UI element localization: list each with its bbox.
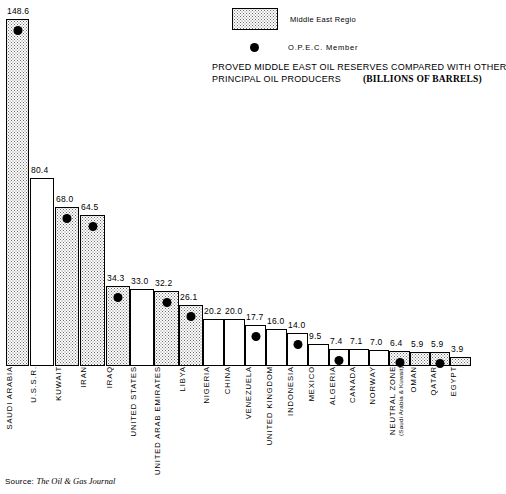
axis-label-canada: CANADA xyxy=(349,366,369,403)
bar-value-label: 64.5 xyxy=(81,202,98,212)
bar-value-label: 9.5 xyxy=(309,331,321,341)
axis-label-sub: (Saudi Arabia & Kuwait) xyxy=(397,366,404,436)
axis-label-china: CHINA xyxy=(224,366,245,394)
bar-norway xyxy=(369,350,389,366)
bar-column xyxy=(308,2,329,366)
bar-column xyxy=(6,2,29,366)
bar-column xyxy=(430,2,450,366)
bar-value-label: 68.0 xyxy=(56,194,73,204)
opec-dot-icon xyxy=(13,26,22,35)
bar-column xyxy=(349,2,369,366)
bar-oman xyxy=(410,352,430,366)
bar-value-label: 14.0 xyxy=(288,320,305,330)
bar-iran xyxy=(80,215,105,366)
bar-column xyxy=(287,2,308,366)
bar-column xyxy=(154,2,179,366)
bar-column xyxy=(266,2,287,366)
opec-dot-icon xyxy=(251,332,260,341)
bar-value-label: 32.2 xyxy=(155,278,172,288)
bar-value-label: 16.0 xyxy=(267,316,284,326)
opec-dot-icon xyxy=(293,340,302,349)
axis-label-u-s-s-r-: U.S.S.R. xyxy=(30,366,54,403)
opec-dot-icon xyxy=(187,312,196,321)
bar-united-states xyxy=(130,289,154,366)
bar-saudi-arabia xyxy=(6,19,29,366)
bar-value-label: 5.9 xyxy=(431,339,443,349)
bar-value-label: 6.4 xyxy=(390,338,402,348)
bar-column xyxy=(329,2,349,366)
source-prefix: Source: xyxy=(5,477,34,486)
bar-value-label: 5.9 xyxy=(411,339,423,349)
opec-dot-icon xyxy=(88,222,97,231)
axis-label-norway: NORWAY xyxy=(369,366,389,405)
bar-value-label: 7.1 xyxy=(350,336,362,346)
bar-column xyxy=(389,2,410,366)
bar-value-label: 17.7 xyxy=(246,312,263,322)
bar-value-label: 34.3 xyxy=(107,273,124,283)
bar-column xyxy=(130,2,154,366)
axis-label-kuwait: KUWAIT xyxy=(55,366,79,401)
bar-value-label: 7.4 xyxy=(330,336,342,346)
bar-nigeria xyxy=(203,319,224,366)
bar-column xyxy=(55,2,79,366)
bar-value-label: 148.6 xyxy=(7,6,29,16)
axis-label-venezuela: VENEZUELA xyxy=(245,366,266,419)
opec-dot-icon xyxy=(162,298,171,307)
bar-column xyxy=(80,2,105,366)
bar-egypt xyxy=(450,357,471,366)
opec-dot-icon xyxy=(114,293,123,302)
axis-label-qatar: QATAR xyxy=(430,366,450,396)
axis-label-indonesia: INDONESIA xyxy=(287,366,308,416)
bar-indonesia xyxy=(287,333,308,366)
bar-value-label: 7.0 xyxy=(370,337,382,347)
bar-column xyxy=(179,2,203,366)
bar-china xyxy=(224,319,245,366)
bar-value-label: 20.2 xyxy=(204,306,221,316)
source-note: Source: The Oil & Gas Journal xyxy=(5,476,115,486)
bar-mexico xyxy=(308,344,329,366)
chart-category-axis: SAUDI ARABIAU.S.S.R.KUWAITIRANIRAQUNITED… xyxy=(0,366,444,474)
axis-label-united-kingdom: UNITED KINGDOM xyxy=(266,366,287,445)
axis-label-saudi-arabia: SAUDI ARABIA xyxy=(6,366,29,430)
bar-value-label: 80.4 xyxy=(31,165,48,175)
source-journal: The Oil & Gas Journal xyxy=(36,476,115,486)
bar-column xyxy=(450,2,471,366)
chart-plot-area: 148.680.468.064.534.333.032.226.120.220.… xyxy=(0,0,444,366)
opec-dot-icon xyxy=(335,356,344,365)
bar-column xyxy=(410,2,430,366)
axis-label-oman: OMAN xyxy=(410,366,430,392)
bar-column xyxy=(369,2,389,366)
axis-label-iran: IRAN xyxy=(80,366,105,388)
bar-kuwait xyxy=(55,207,79,366)
bar-value-label: 20.0 xyxy=(225,306,242,316)
axis-label-mexico: MEXICO xyxy=(308,366,329,401)
opec-dot-icon xyxy=(63,214,72,223)
axis-label-nigeria: NIGERIA xyxy=(203,366,224,404)
axis-label-neutral-zone: NEUTRAL ZONE(Saudi Arabia & Kuwait) xyxy=(389,366,410,436)
axis-label-united-arab-emirates: UNITED ARAB EMIRATES xyxy=(154,366,179,475)
axis-label-libya: LIBYA xyxy=(179,366,203,391)
bar-value-label: 33.0 xyxy=(131,276,148,286)
axis-label-egypt: EGYPT xyxy=(450,366,471,396)
bar-canada xyxy=(349,349,369,366)
axis-label-algeria: ALGERIA xyxy=(329,366,349,405)
bar-united-kingdom xyxy=(266,329,287,366)
bar-value-label: 3.9 xyxy=(451,344,463,354)
axis-label-iraq: IRAQ xyxy=(106,366,130,388)
bar-u-s-s-r- xyxy=(30,178,54,366)
bar-column xyxy=(30,2,54,366)
bar-value-label: 26.1 xyxy=(180,292,197,302)
axis-label-united-states: UNITED STATES xyxy=(130,366,154,436)
bar-column xyxy=(106,2,130,366)
